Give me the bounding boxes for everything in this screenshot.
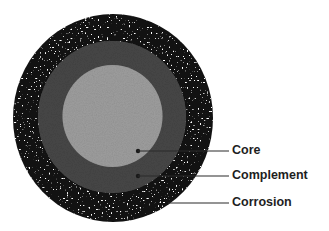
label-complement: Complement xyxy=(232,168,308,182)
label-corrosion: Corrosion xyxy=(232,195,292,209)
label-core: Core xyxy=(232,143,260,157)
core-layer xyxy=(63,65,163,167)
